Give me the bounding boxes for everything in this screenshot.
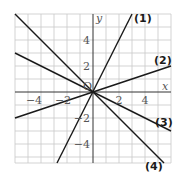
y-tick-neg4: −4 [74, 138, 90, 151]
x-tick-4: 4 [142, 94, 149, 107]
line-2-label: (2) [154, 54, 172, 67]
x-tick-neg2: −2 [55, 94, 71, 107]
origin-label: O [83, 80, 92, 93]
x-tick-neg4: −4 [26, 94, 42, 107]
y-tick-neg2: −2 [74, 112, 90, 125]
coordinate-plane: y x O −4 −2 2 4 4 2 −2 −4 (1) (2) (3) (4… [0, 0, 179, 181]
y-tick-4: 4 [83, 34, 90, 47]
line-1 [57, 14, 132, 163]
x-tick-2: 2 [116, 94, 123, 107]
x-axis-label: x [162, 80, 169, 93]
line-3-label: (3) [155, 116, 173, 129]
y-tick-2: 2 [83, 60, 90, 73]
y-axis-label: y [95, 12, 103, 25]
line-4-label: (4) [145, 160, 163, 173]
line-1-label: (1) [134, 12, 152, 25]
